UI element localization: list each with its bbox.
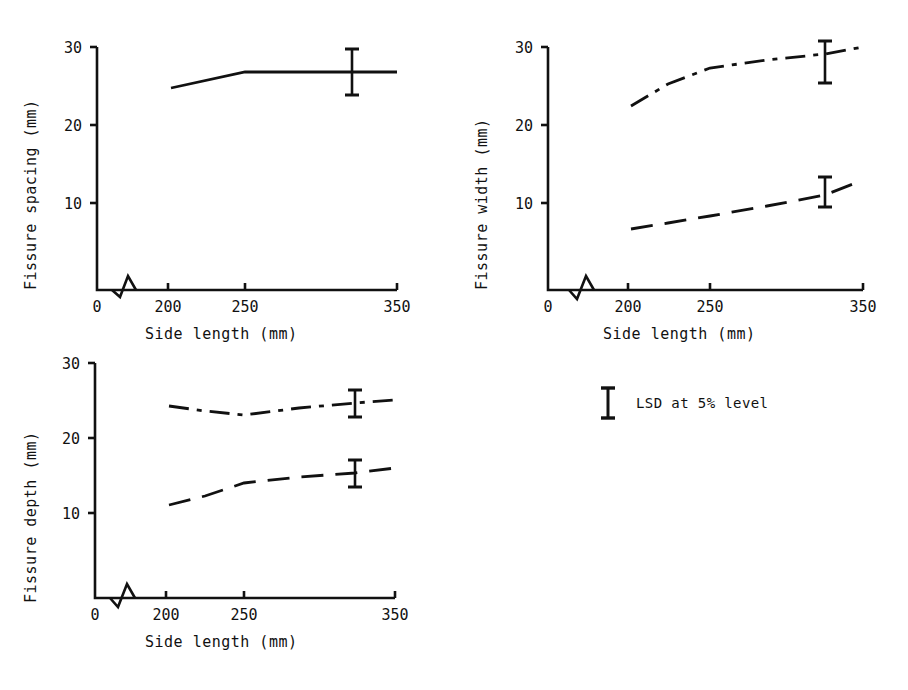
- chart-fissure-width: 30 20 10 0 200 250 350: [451, 0, 908, 320]
- x-axis-title-2: Side length (mm): [603, 325, 756, 343]
- tick-labels-3: 30 20 10 0 200 250 350: [62, 355, 409, 624]
- line-spacing: [171, 72, 397, 88]
- legend-lsd: LSD at 5% level: [598, 385, 768, 421]
- ytick-label-10: 10: [515, 195, 533, 213]
- xtick-label-350: 350: [381, 606, 408, 624]
- xtick-label-250: 250: [696, 298, 723, 316]
- legend-label: LSD at 5% level: [636, 395, 768, 411]
- figure-root: 30 20 10 0 200 250 350 Fissure spacing (…: [0, 0, 908, 690]
- ytick-label-10: 10: [62, 505, 80, 523]
- chart-fissure-width-canvas: 30 20 10 0 200 250 350: [451, 0, 908, 320]
- data-series-width-lower: [631, 177, 863, 229]
- plot-axes-2: [541, 47, 863, 299]
- xtick-label-200: 200: [154, 298, 181, 316]
- line-width-upper: [631, 47, 863, 106]
- xtick-label-250: 250: [230, 606, 257, 624]
- ytick-label-30: 30: [64, 39, 82, 57]
- x-axis-break-icon: [110, 584, 135, 607]
- x-axis-title-3: Side length (mm): [145, 633, 298, 651]
- xtick-label-0: 0: [90, 606, 99, 624]
- line-depth-upper: [169, 400, 395, 415]
- y-axis-title-1: Fissure spacing (mm): [22, 99, 40, 290]
- xtick-label-350: 350: [849, 298, 876, 316]
- error-bar-width-upper: [818, 41, 832, 83]
- xtick-label-200: 200: [152, 606, 179, 624]
- axis-lines: [95, 363, 395, 598]
- chart-fissure-depth-canvas: 30 20 10 0 200 250 350: [0, 355, 440, 625]
- y-axis-title-2: Fissure width (mm): [473, 118, 491, 290]
- x-axis-title-1: Side length (mm): [145, 325, 298, 343]
- xtick-label-250: 250: [231, 298, 258, 316]
- line-width-lower: [631, 180, 863, 229]
- axis-lines: [548, 47, 863, 290]
- chart-fissure-depth: 30 20 10 0 200 250 350: [0, 355, 440, 625]
- ytick-label-20: 20: [62, 430, 80, 448]
- tick-labels-1: 30 20 10 0 200 250 350: [64, 39, 411, 316]
- x-axis-break-icon: [112, 276, 136, 297]
- x-axis-break-icon: [569, 276, 594, 299]
- error-bar-width-lower: [818, 177, 832, 207]
- ytick-label-20: 20: [64, 117, 82, 135]
- ytick-label-10: 10: [64, 195, 82, 213]
- xtick-label-0: 0: [543, 298, 552, 316]
- chart-fissure-spacing-canvas: 30 20 10 0 200 250 350: [0, 0, 440, 320]
- lsd-error-bar-icon: [598, 385, 618, 421]
- xtick-label-0: 0: [92, 298, 101, 316]
- xtick-label-350: 350: [383, 298, 410, 316]
- xtick-label-200: 200: [614, 298, 641, 316]
- data-series-spacing: [171, 49, 397, 95]
- ytick-label-30: 30: [515, 39, 533, 57]
- y-axis-title-3: Fissure depth (mm): [22, 431, 40, 603]
- data-series-width-upper: [631, 41, 863, 106]
- chart-fissure-spacing: 30 20 10 0 200 250 350 Fissure spacing (…: [0, 0, 440, 320]
- ytick-label-30: 30: [62, 355, 80, 373]
- ytick-label-20: 20: [515, 117, 533, 135]
- data-series-depth-lower: [169, 460, 395, 505]
- data-series-depth-upper: [169, 390, 395, 417]
